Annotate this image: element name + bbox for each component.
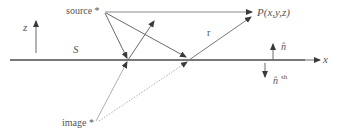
incident-ray-2 xyxy=(106,13,186,57)
image-ray-dotted xyxy=(99,62,187,121)
surface-label: S xyxy=(73,43,79,55)
normal-sh-label: n̂ xyxy=(273,75,278,86)
z-axis-label: z xyxy=(22,21,28,33)
x-axis-label: x xyxy=(322,53,328,65)
r-label: r xyxy=(207,27,211,38)
incident-ray-1 xyxy=(105,13,127,58)
point-label: P(x,y,z) xyxy=(256,6,290,19)
reflection-diagram: x z S source * P(x,y,z) r image * n̂ n̂ … xyxy=(0,0,338,139)
source-label: source * xyxy=(66,5,100,16)
normal-label: n̂ xyxy=(281,41,286,52)
image-label: image * xyxy=(62,117,94,128)
normal-sh-superscript: sh xyxy=(281,73,288,81)
r-ray xyxy=(189,17,251,60)
